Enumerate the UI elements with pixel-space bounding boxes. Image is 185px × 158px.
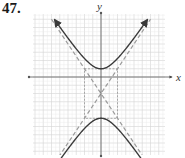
hyperbola-graph: x y (0, 0, 185, 158)
grid-lines (33, 14, 165, 155)
y-axis-label: y (96, 0, 102, 12)
x-axis-label: x (175, 71, 181, 83)
